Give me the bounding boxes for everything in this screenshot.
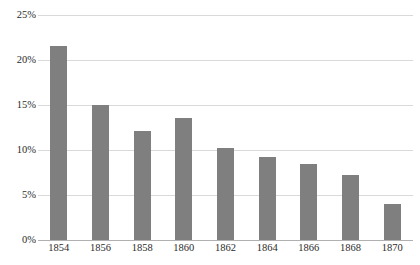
- x-axis-tick-label: 1870: [382, 243, 403, 254]
- bar: [300, 164, 317, 240]
- x-axis-baseline: [38, 240, 413, 241]
- x-axis-tick-label: 1854: [48, 243, 69, 254]
- y-axis-tick-label: 10%: [2, 145, 36, 156]
- bar: [217, 148, 234, 240]
- bar-chart: 0%5%10%15%20%25% 18541856185818601862186…: [0, 0, 420, 265]
- bar: [175, 118, 192, 240]
- y-axis-tick-label: 20%: [2, 55, 36, 66]
- x-axis-tick-label: 1862: [215, 243, 236, 254]
- y-axis-tick-label: 25%: [2, 10, 36, 21]
- bar: [259, 157, 276, 240]
- x-axis-tick-label: 1858: [132, 243, 153, 254]
- x-axis-tick-label: 1856: [90, 243, 111, 254]
- x-axis: 185418561858186018621864186618681870: [38, 243, 413, 263]
- y-axis-tick-label: 0%: [2, 235, 36, 246]
- x-axis-tick-label: 1866: [298, 243, 319, 254]
- x-axis-tick-label: 1864: [257, 243, 278, 254]
- bar: [134, 131, 151, 240]
- bar-series: [38, 15, 413, 240]
- y-axis-tick-label: 15%: [2, 100, 36, 111]
- x-axis-tick-label: 1868: [340, 243, 361, 254]
- y-axis-tick-label: 5%: [2, 190, 36, 201]
- y-axis: 0%5%10%15%20%25%: [0, 15, 36, 240]
- bar: [342, 175, 359, 240]
- bar: [92, 105, 109, 240]
- x-axis-tick-label: 1860: [173, 243, 194, 254]
- bar: [384, 204, 401, 240]
- bar: [50, 46, 67, 240]
